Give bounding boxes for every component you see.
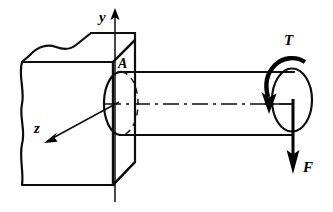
section-point-a-label: A [117, 56, 127, 71]
z-axis-arrowhead [44, 132, 58, 143]
y-axis-label: y [97, 9, 106, 25]
force-label: F [302, 159, 313, 175]
z-axis-line [51, 102, 119, 139]
torque-label: T [284, 32, 294, 48]
z-axis-label: z [33, 120, 40, 136]
block-bottom-receding-edge [113, 162, 135, 185]
applied-torque-arrow [262, 58, 306, 114]
engineering-figure: y z A T F [0, 0, 333, 212]
figure-canvas: y z A T F [0, 0, 333, 212]
coordinate-axes [44, 8, 120, 202]
